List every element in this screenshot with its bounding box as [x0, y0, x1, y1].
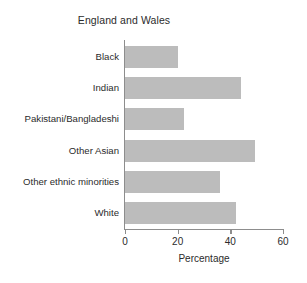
- chart-title: England and Wales: [0, 14, 248, 26]
- x-tick-mark: [178, 229, 179, 234]
- category-label: Pakistani/Bangladeshi: [0, 113, 119, 124]
- category-label: Black: [0, 51, 119, 62]
- bar-row: [125, 104, 283, 135]
- bar-row: [125, 41, 283, 72]
- category-label: Other Asian: [0, 145, 119, 156]
- bar: [125, 171, 220, 193]
- category-label: Other ethnic minorities: [0, 176, 119, 187]
- bar: [125, 140, 255, 162]
- x-tick-label: 60: [268, 236, 298, 247]
- x-tick-mark: [283, 229, 284, 234]
- x-axis-line: [124, 229, 284, 230]
- category-label: Indian: [0, 82, 119, 93]
- bar-chart-figure: England and Wales BlackIndianPakistani/B…: [0, 0, 307, 283]
- bar: [125, 108, 184, 130]
- bar: [125, 46, 178, 68]
- x-axis-title: Percentage: [125, 253, 283, 264]
- x-tick-mark: [125, 229, 126, 234]
- x-tick-mark: [230, 229, 231, 234]
- bar: [125, 77, 241, 99]
- x-tick-label: 40: [215, 236, 245, 247]
- x-tick-label: 0: [110, 236, 140, 247]
- bar-row: [125, 166, 283, 197]
- x-tick-label: 20: [163, 236, 193, 247]
- plot-area: [125, 41, 283, 229]
- bar-row: [125, 135, 283, 166]
- bar: [125, 202, 236, 224]
- bar-row: [125, 72, 283, 103]
- bar-row: [125, 198, 283, 229]
- category-label: White: [0, 207, 119, 218]
